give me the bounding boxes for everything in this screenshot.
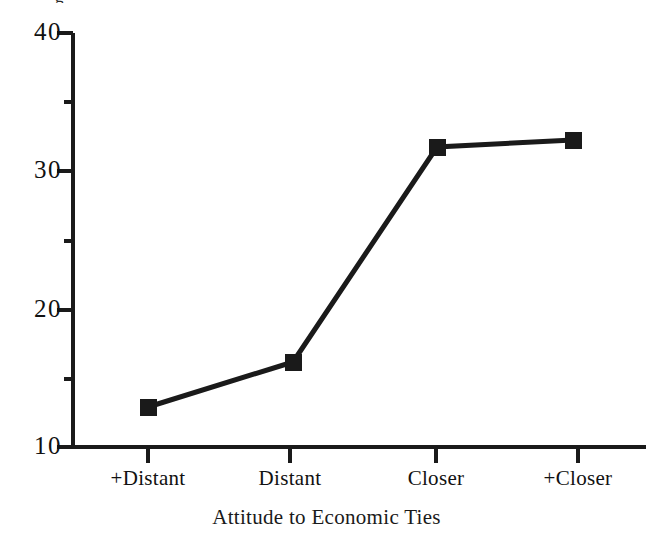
y-tick-label-10: 10 [4, 432, 62, 460]
data-point-marker-1 [140, 399, 157, 416]
y-tick-label-20: 20 [4, 295, 62, 323]
data-point-marker-3 [429, 139, 446, 156]
x-tick-label-plus-closer: +Closer [498, 466, 653, 491]
y-tick-label-30: 30 [4, 156, 62, 184]
x-tick-label-plus-distant: +Distant [68, 466, 228, 491]
plot-area-svg [0, 0, 653, 542]
x-tick-label-distant: Distant [210, 466, 370, 491]
data-series-line [148, 140, 573, 407]
line-chart-figure: g 40 30 20 10 +Distant Distant Closer [0, 0, 653, 542]
y-tick-label-40: 40 [4, 18, 62, 46]
data-point-marker-4 [565, 132, 582, 149]
x-axis-title: Attitude to Economic Ties [0, 505, 653, 530]
x-tick-label-closer: Closer [356, 466, 516, 491]
data-point-marker-2 [285, 354, 302, 371]
